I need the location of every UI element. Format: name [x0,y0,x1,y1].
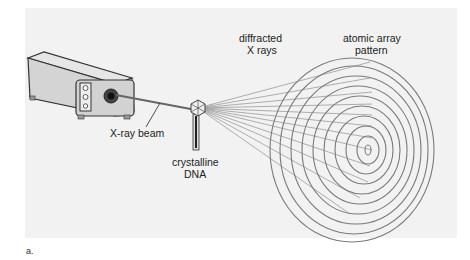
diffracted-rays [198,62,372,214]
crystalline-dna-label-line2: DNA [184,168,206,180]
diffracted-rays-label-line1: diffracted [239,32,282,44]
pattern-label-line2: pattern [355,44,388,56]
xray-beam-label: X-ray beam [110,127,164,139]
xray-machine-icon [28,52,134,119]
diffracted-rays-label-line2: X rays [247,44,277,56]
pattern-label-line1: atomic array [343,32,401,44]
panel-letter: a. [26,246,34,256]
crystalline-dna-label-line1: crystalline [172,156,219,168]
crystalline-dna-icon [191,100,205,150]
